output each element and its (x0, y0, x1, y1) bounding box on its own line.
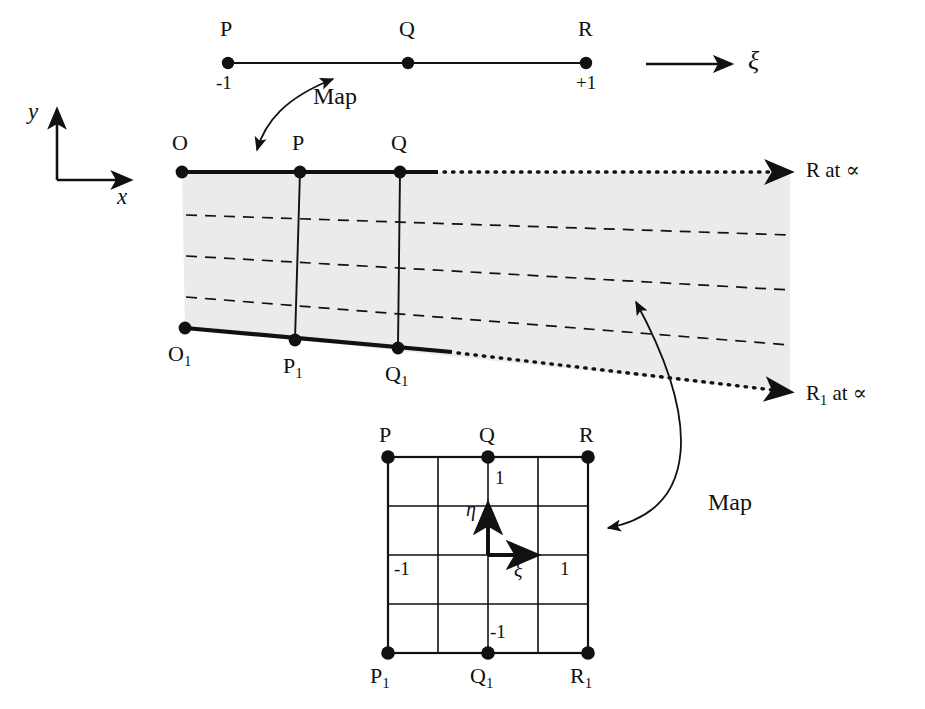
domain-label-O: O (172, 132, 188, 154)
domain-node-Q1 (392, 342, 405, 355)
domain-label-O1-sub: 1 (184, 353, 191, 369)
domain-label-O1-main: O (168, 341, 184, 366)
square-label-P1-main: P (370, 663, 382, 688)
domain-node-O1 (179, 322, 192, 335)
parent-square-group (381, 450, 595, 660)
square-tick-right: 1 (560, 559, 570, 578)
parent-line-coord-minus-one: -1 (216, 73, 232, 92)
domain-label-P1: P1 (283, 355, 303, 381)
map-label-top: Map (313, 84, 357, 108)
domain-label-Q: Q (391, 132, 407, 154)
parent-line-label-Q: Q (399, 18, 415, 40)
square-label-R1-sub: 1 (585, 675, 592, 691)
square-label-R1: R1 (570, 665, 592, 691)
parent-line-group (222, 57, 731, 69)
far-field-label-R1-main: R (806, 381, 820, 405)
parent-line-label-P: P (220, 18, 232, 40)
square-label-R: R (579, 424, 594, 446)
parent-node-Q (402, 57, 414, 69)
domain-label-Q1: Q1 (385, 363, 408, 389)
parent-line-xi-label: ξ (748, 48, 759, 74)
square-node-R1 (581, 646, 595, 660)
diagram-vector-layer (0, 0, 925, 709)
square-node-P (381, 450, 395, 464)
square-label-Q1-main: Q (470, 663, 486, 688)
domain-label-P1-sub: 1 (295, 365, 302, 381)
far-field-label-R1: R1 at ∝ (806, 383, 867, 407)
domain-label-Q1-main: Q (385, 361, 401, 386)
wedge-shaded-region (182, 172, 790, 392)
square-label-R1-main: R (570, 663, 585, 688)
parent-line-coord-plus-one: +1 (576, 73, 596, 92)
domain-label-O1: O1 (168, 343, 191, 369)
square-label-P: P (379, 424, 391, 446)
far-field-label-R: R at ∝ (806, 160, 860, 181)
square-tick-bottom: -1 (490, 622, 506, 641)
square-node-R (581, 450, 595, 464)
square-label-Q1: Q1 (470, 665, 493, 691)
square-tick-top: 1 (495, 468, 505, 487)
domain-label-P: P (292, 132, 304, 154)
square-label-P1-sub: 1 (382, 675, 389, 691)
parent-node-R (580, 57, 592, 69)
domain-node-P (294, 166, 307, 179)
parent-line-label-R: R (578, 18, 593, 40)
global-axis-label-y: y (28, 100, 38, 123)
square-eta-label: η (466, 499, 476, 519)
square-xi-label: ξ (514, 560, 523, 580)
square-node-Q1 (481, 646, 495, 660)
square-tick-left: -1 (394, 559, 410, 578)
far-field-label-R1-rest: at ∝ (827, 381, 867, 405)
square-node-Q (481, 450, 495, 464)
domain-label-P1-main: P (283, 353, 295, 378)
domain-node-O (176, 166, 189, 179)
global-axes-group (57, 110, 130, 180)
domain-node-P1 (289, 334, 302, 347)
square-label-Q1-sub: 1 (486, 675, 493, 691)
square-node-P1 (381, 646, 395, 660)
parent-node-P (222, 57, 234, 69)
global-axis-label-x: x (117, 185, 127, 208)
domain-node-Q (394, 166, 407, 179)
square-label-Q: Q (479, 424, 495, 446)
square-label-P1: P1 (370, 665, 390, 691)
domain-label-Q1-sub: 1 (401, 373, 408, 389)
figure-canvas: P Q R -1 +1 ξ Map Map y x O P Q O1 P1 Q1… (0, 0, 925, 709)
map-label-bottom: Map (708, 490, 752, 514)
infinite-domain-group (176, 166, 790, 392)
